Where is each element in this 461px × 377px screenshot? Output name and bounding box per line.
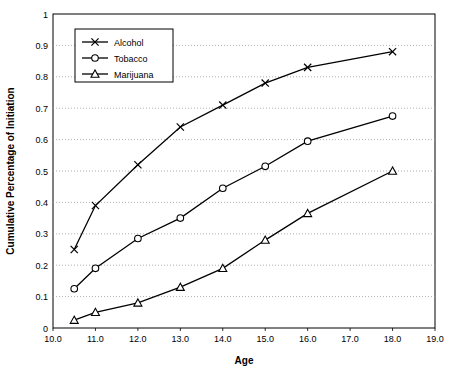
data-point-marker (262, 163, 269, 170)
x-tick-label: 14.0 (214, 334, 232, 344)
data-point-marker (177, 215, 184, 222)
legend-label-tobacco: Tobacco (114, 54, 148, 64)
y-tick-label: 1 (43, 10, 48, 20)
x-tick-label: 12.0 (129, 334, 147, 344)
y-axis-title: Cumulative Percentage of Initiation (5, 87, 16, 254)
legend-items: AlcoholTobaccoMarijuana (82, 38, 154, 80)
legend-label-alcohol: Alcohol (114, 38, 144, 48)
data-point-marker (92, 265, 99, 272)
x-tick-label: 13.0 (172, 334, 190, 344)
data-point-marker (71, 285, 78, 292)
legend: AlcoholTobaccoMarijuana (75, 29, 173, 82)
y-tick-label: 0.7 (35, 104, 48, 114)
y-tick-label: 0.5 (35, 167, 48, 177)
data-point-marker (389, 113, 396, 120)
y-tick-label: 0.3 (35, 229, 48, 239)
y-tick-label: 0.2 (35, 261, 48, 271)
data-point-marker (135, 235, 142, 242)
x-tick-label: 18.0 (384, 334, 402, 344)
y-tick-label: 0.6 (35, 135, 48, 145)
x-tick-label: 11.0 (87, 334, 104, 344)
y-tick-label: 0.4 (35, 198, 48, 208)
data-point-marker (304, 138, 311, 145)
y-tick-label: 0 (43, 324, 48, 334)
data-point-marker (92, 55, 99, 62)
x-tick-label: 10.0 (44, 334, 62, 344)
x-tick-label: 19.0 (426, 334, 444, 344)
y-tick-label: 0.1 (35, 292, 48, 302)
x-axis-title: Age (235, 355, 254, 366)
chart-container: 00.10.20.30.40.50.60.70.80.91 10.011.012… (0, 0, 461, 377)
data-point-marker (219, 185, 226, 192)
y-tick-label: 0.9 (35, 41, 48, 51)
x-tick-label: 16.0 (299, 334, 317, 344)
legend-label-marijuana: Marijuana (114, 70, 154, 80)
x-tick-label: 15.0 (256, 334, 274, 344)
y-tick-label: 0.8 (35, 72, 48, 82)
x-tick-label: 17.0 (341, 334, 359, 344)
line-chart: 00.10.20.30.40.50.60.70.80.91 10.011.012… (0, 0, 461, 377)
